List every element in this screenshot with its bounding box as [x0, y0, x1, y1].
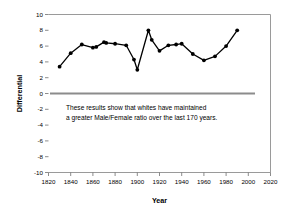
x-tick-label: 1920	[153, 178, 167, 185]
data-point	[180, 42, 184, 46]
data-point	[91, 46, 95, 50]
y-tick-label: -6	[37, 137, 43, 144]
x-tick-label: 1980	[219, 178, 233, 185]
y-tick-label: -10	[34, 169, 44, 176]
x-tick-label: 1820	[42, 178, 56, 185]
data-point	[132, 58, 136, 62]
data-point	[135, 68, 139, 72]
y-tick-label: 2	[40, 74, 44, 81]
x-tick-label: 1900	[130, 178, 144, 185]
data-point	[124, 43, 128, 47]
data-point	[94, 45, 98, 49]
y-tick-label: 6	[40, 42, 44, 49]
data-point	[224, 44, 228, 48]
data-point	[80, 43, 84, 47]
y-tick-label: 0	[40, 90, 44, 97]
annotation-line-1: These results show that whites have main…	[66, 104, 207, 111]
x-tick-label: 1940	[175, 178, 189, 185]
data-point	[150, 38, 154, 42]
data-point	[213, 54, 217, 58]
x-tick-label: 1960	[197, 178, 211, 185]
y-tick-label: 10	[36, 11, 43, 18]
data-point	[69, 51, 73, 55]
chart-figure: 10 8 6 4 2 0 -2 -4 -6 -8 -10	[0, 0, 289, 219]
y-tick-label: 4	[40, 58, 44, 65]
data-point	[113, 42, 117, 46]
data-point	[174, 43, 178, 47]
data-point	[191, 52, 195, 56]
x-tick-label: 2020	[264, 178, 278, 185]
y-tick-label: -2	[37, 105, 43, 112]
data-point	[147, 28, 151, 32]
line-chart: 10 8 6 4 2 0 -2 -4 -6 -8 -10	[0, 0, 289, 219]
y-tick-label: -8	[37, 153, 43, 160]
data-point	[235, 28, 239, 32]
data-point	[58, 65, 62, 69]
x-axis-title: Year	[152, 196, 167, 205]
x-tick-label: 1860	[86, 178, 100, 185]
annotation-line-2: a greater Male/Female ratio over the las…	[66, 114, 218, 122]
data-point	[166, 43, 170, 47]
x-tick-label: 1880	[108, 178, 122, 185]
x-tick-label: 2000	[241, 178, 255, 185]
x-tick-label: 1840	[64, 178, 78, 185]
y-axis-title: Differential	[15, 75, 24, 113]
x-axis-tick-labels: 1820 1840 1860 1880 1900 1920 1940 1960 …	[42, 178, 278, 185]
data-point	[104, 41, 108, 45]
y-tick-label: -4	[37, 121, 43, 128]
data-point	[202, 58, 206, 62]
data-point	[158, 49, 162, 53]
y-tick-label: 8	[40, 26, 44, 33]
